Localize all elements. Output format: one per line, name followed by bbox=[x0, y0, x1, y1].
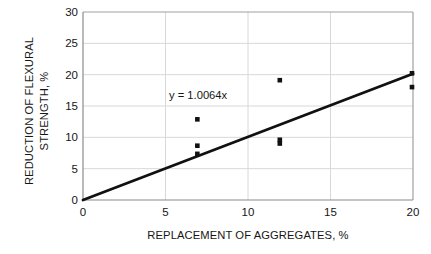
data-point-marker bbox=[410, 85, 415, 90]
trendline-equation-label: y = 1.0064x bbox=[169, 89, 227, 101]
x-axis-title: REPLACEMENT OF AGGREGATES, % bbox=[83, 229, 413, 241]
data-point-marker bbox=[195, 117, 200, 122]
data-point-marker bbox=[278, 141, 283, 146]
gridlines bbox=[83, 12, 413, 200]
data-point-marker bbox=[195, 143, 200, 148]
plot-area bbox=[0, 0, 431, 254]
data-point-marker bbox=[278, 78, 283, 83]
data-point-marker bbox=[410, 71, 415, 76]
data-point-marker bbox=[195, 152, 200, 157]
chart-container: REDUCTION OF FLEXURAL STRENGTH, % 0 5 10… bbox=[0, 0, 431, 254]
